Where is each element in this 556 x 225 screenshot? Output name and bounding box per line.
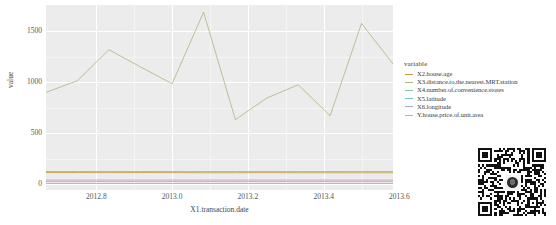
legend-items: X2.house.ageX3.distance.to.the.nearest.M… [404, 70, 554, 119]
legend-key-swatch [404, 78, 414, 86]
legend: variable X2.house.ageX3.distance.to.the.… [404, 60, 554, 119]
legend-item-label: X2.house.age [417, 70, 452, 78]
y-axis-tick-label: 500 [0, 128, 42, 137]
legend-item-label: Y.house.price.of.unit.area [417, 111, 483, 119]
x-axis-tick-label: 2013.0 [162, 192, 183, 201]
legend-key-swatch [404, 103, 414, 111]
legend-item: X5.latitude [404, 95, 554, 103]
y-axis-title: value [6, 72, 15, 88]
legend-item-label: X6.longitude [417, 103, 451, 111]
chart-page: 050010001500 value 2012.82013.02013.2201… [0, 0, 556, 225]
legend-item: X2.house.age [404, 70, 554, 78]
y-axis-tick-label: 0 [0, 179, 42, 188]
plot-panel [46, 5, 393, 190]
qr-code[interactable] [478, 148, 546, 216]
series-lines [46, 5, 393, 190]
legend-key-swatch [404, 111, 414, 119]
x-axis-title: X1.transaction.date [46, 205, 393, 214]
qr-code-logo-icon [504, 174, 521, 191]
legend-key-swatch [404, 95, 414, 103]
legend-key-swatch [404, 86, 414, 94]
legend-item: X4.number.of.convenience.stores [404, 86, 554, 94]
x-axis-tick-label: 2012.8 [86, 192, 107, 201]
y-axis-tick-label: 1500 [0, 26, 42, 35]
legend-title: variable [404, 60, 554, 68]
legend-item-label: X5.latitude [417, 95, 446, 103]
legend-item-label: X3.distance.to.the.nearest.MRT.station [417, 78, 518, 86]
x-axis-tick-label: 2013.2 [238, 192, 259, 201]
legend-item-label: X4.number.of.convenience.stores [417, 86, 504, 94]
legend-item: X3.distance.to.the.nearest.MRT.station [404, 78, 554, 86]
legend-key-swatch [404, 70, 414, 78]
legend-item: Y.house.price.of.unit.area [404, 111, 554, 119]
legend-item: X6.longitude [404, 103, 554, 111]
series-line [46, 12, 393, 120]
x-axis-tick-label: 2013.4 [313, 192, 334, 201]
x-axis-tick-label: 2013.6 [389, 192, 410, 201]
